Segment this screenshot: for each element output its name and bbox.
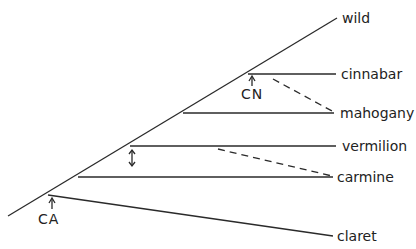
label-claret: claret [337, 228, 377, 244]
label-vermilion: vermilion [342, 138, 407, 154]
arrow-up-icon [49, 198, 55, 209]
marker-ca: CA [38, 211, 59, 227]
label-mahogany: mahogany [340, 105, 414, 121]
dashed-link-vermilion-carmine [218, 149, 332, 176]
dashed-link-cinnabar-mahogany [273, 79, 332, 111]
label-carmine: carmine [337, 169, 394, 185]
branch-claret [48, 195, 333, 236]
marker-cn: CN [241, 86, 263, 102]
label-cinnabar: cinnabar [341, 66, 402, 82]
gene-tree-diagram: wild cinnabar CN mahogany vermilion V ca… [0, 0, 416, 249]
arrow-up-icon [249, 76, 255, 86]
trunk-line [8, 18, 337, 216]
label-wild: wild [342, 10, 370, 26]
